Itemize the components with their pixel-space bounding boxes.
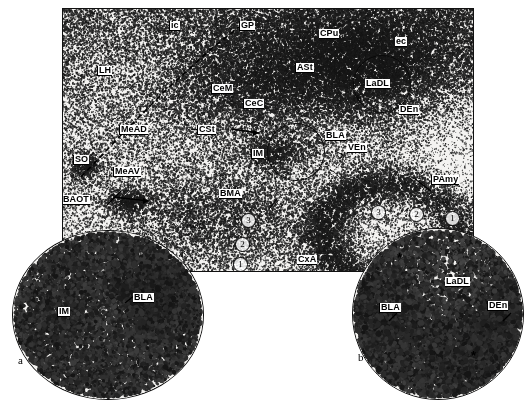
- roi-marker-a: a: [271, 159, 275, 170]
- roi-circle-a: [267, 123, 325, 181]
- label-pamy: PAmy: [431, 175, 459, 185]
- circled-number-right-1: 1: [445, 211, 460, 226]
- label-meav: MeAV: [113, 167, 141, 177]
- label-ast: ASt: [295, 63, 314, 73]
- figure-root: a b ic GP CPu ec LH CeM CeC ASt LaDL DEn…: [0, 0, 529, 404]
- label-bla: BLA: [325, 131, 346, 141]
- inset-b-label-ladl: LaDL: [445, 277, 470, 287]
- inset-a-grain-image: [13, 231, 203, 399]
- label-baot: BAOT: [62, 195, 90, 205]
- inset-a-label-bla: BLA: [133, 293, 154, 303]
- label-aco: ACo: [185, 221, 205, 230]
- label-ven: VEn: [347, 143, 367, 153]
- label-cxa: CxA: [297, 255, 317, 265]
- circled-number-left-1: 1: [233, 257, 248, 272]
- label-im: IM: [251, 149, 264, 159]
- circled-number-left-3: 3: [241, 213, 256, 228]
- label-cec: CeC: [243, 99, 264, 109]
- label-so: SO: [73, 155, 89, 165]
- panel-letter-b: b: [358, 352, 364, 363]
- label-den: DEn: [399, 105, 419, 115]
- roi-marker-b: b: [357, 93, 362, 104]
- circled-number-left-2: 2: [235, 237, 250, 252]
- inset-b-asterisk-bottom: *: [471, 349, 476, 362]
- label-gp: GP: [239, 21, 255, 31]
- label-ec: ec: [395, 37, 407, 47]
- label-ladl: LaDL: [365, 79, 390, 89]
- circled-number-right-2: 2: [409, 207, 424, 222]
- label-lh: LH: [97, 66, 112, 76]
- inset-b-label-den: DEn: [487, 301, 508, 311]
- label-cst: CSt: [197, 125, 216, 135]
- label-mead: MeAD: [119, 125, 148, 135]
- label-bma: BMA: [219, 189, 242, 199]
- inset-circle-b: LaDL BLA DEn * *: [352, 228, 524, 400]
- inset-b-label-bla: BLA: [379, 303, 401, 313]
- label-ic: ic: [169, 21, 180, 31]
- inset-b-grain-image: [353, 229, 523, 399]
- label-cem: CeM: [211, 84, 233, 94]
- inset-a-label-im: IM: [57, 307, 70, 317]
- panel-letter-a: a: [18, 355, 23, 366]
- inset-b-asterisk-top: *: [397, 251, 402, 264]
- inset-circle-a: IM BLA: [12, 230, 204, 400]
- label-cpu: CPu: [319, 29, 339, 39]
- circled-number-right-3: 3: [371, 205, 386, 220]
